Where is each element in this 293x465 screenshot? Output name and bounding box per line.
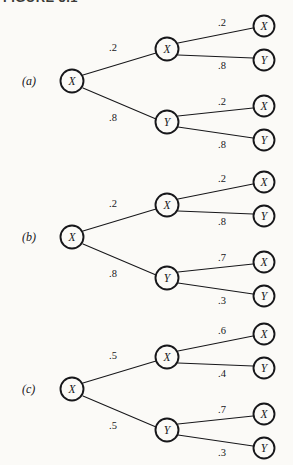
- edge-a-root-to-x: [83, 53, 156, 75]
- node-b-leaf-1-letter: X: [259, 176, 268, 188]
- edge-c-root-to-x: [83, 361, 156, 383]
- node-a-root-letter: X: [67, 75, 76, 87]
- edge-a-y-to-x: [178, 108, 253, 116]
- edge-a-y-to-y: [178, 127, 253, 138]
- edge-c-root-to-y: [83, 396, 156, 427]
- probability-tree-figure: FIGURE 5.1 (a) (b) (c) X X Y X Y X: [0, 0, 293, 465]
- edge-c-y-to-x: [178, 416, 253, 424]
- prob-a-y-y: .8: [218, 139, 226, 150]
- edge-b-root-to-x: [83, 209, 156, 231]
- edge-c-x-to-y: [178, 363, 253, 366]
- edge-a-x-to-y: [178, 55, 253, 58]
- edge-a-root-to-y: [83, 88, 156, 119]
- edge-c-y-to-y: [178, 435, 253, 446]
- tree-canvas: X X Y X Y X Y .2 .8 .2 .8 .2 .8: [0, 0, 293, 465]
- prob-a-x-x: .2: [218, 17, 226, 28]
- node-a-leaf-1-letter: X: [259, 20, 268, 32]
- prob-a-root-x: .2: [109, 42, 117, 53]
- prob-c-x-y: .4: [218, 368, 227, 379]
- prob-c-y-y: .3: [218, 447, 226, 458]
- edge-a-x-to-x: [178, 28, 253, 43]
- prob-a-y-x: .2: [218, 96, 226, 107]
- prob-b-x-x: .2: [218, 173, 226, 184]
- node-a-leaf-3-letter: X: [259, 100, 268, 112]
- prob-b-x-y: .8: [218, 216, 226, 227]
- node-a-mid-x-letter: X: [162, 43, 171, 55]
- edge-c-x-to-x: [178, 336, 253, 351]
- panel-c-tree: X X Y X Y X Y .5 .5 .6 .4 .7 .3: [61, 324, 275, 459]
- panel-a-tree: X X Y X Y X Y .2 .8 .2 .8 .2 .8: [61, 16, 275, 151]
- node-c-leaf-3-letter: X: [259, 408, 268, 420]
- panel-b-tree: X X Y X Y X Y .2 .8 .2 .8 .7 .3: [61, 172, 275, 307]
- prob-b-y-x: .7: [218, 252, 226, 263]
- edge-b-y-to-x: [178, 264, 253, 272]
- prob-c-y-x: .7: [218, 404, 226, 415]
- prob-b-root-x: .2: [109, 198, 117, 209]
- edge-b-x-to-y: [178, 211, 253, 214]
- node-c-leaf-1-letter: X: [259, 328, 268, 340]
- node-b-mid-x-letter: X: [162, 199, 171, 211]
- prob-c-root-x: .5: [109, 350, 117, 361]
- prob-a-x-y: .8: [218, 60, 226, 71]
- prob-b-root-y: .8: [109, 268, 117, 279]
- edge-b-x-to-x: [178, 184, 253, 199]
- node-c-mid-x-letter: X: [162, 351, 171, 363]
- node-c-root-letter: X: [67, 383, 76, 395]
- prob-c-x-x: .6: [218, 325, 226, 336]
- prob-c-root-y: .5: [109, 420, 117, 431]
- prob-b-y-y: .3: [218, 295, 226, 306]
- edge-b-y-to-y: [178, 283, 253, 294]
- edge-b-root-to-y: [83, 244, 156, 275]
- node-b-leaf-3-letter: X: [259, 256, 268, 268]
- node-b-root-letter: X: [67, 231, 76, 243]
- prob-a-root-y: .8: [109, 112, 117, 123]
